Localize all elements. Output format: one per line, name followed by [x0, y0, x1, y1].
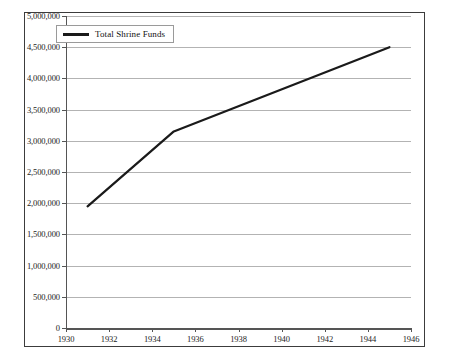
- y-axis-tick-label: 2,500,000: [27, 167, 60, 177]
- y-axis-tick-label: 2,000,000: [27, 198, 60, 208]
- y-axis-tick-label: 3,500,000: [27, 105, 60, 115]
- x-axis-tick-label: 1940: [273, 334, 290, 344]
- y-axis-tick-label: 0: [56, 323, 60, 333]
- y-axis-tick-label: 4,000,000: [27, 73, 60, 83]
- y-axis-tick-label: 1,500,000: [27, 229, 60, 239]
- series-polyline: [88, 47, 390, 206]
- y-axis-tick-label: 1,000,000: [27, 261, 60, 271]
- plot-area: 0500,0001,000,0001,500,0002,000,0002,500…: [66, 16, 411, 328]
- y-axis-line: [66, 16, 67, 329]
- chart-frame: 0500,0001,000,0001,500,0002,000,0002,500…: [24, 12, 425, 347]
- x-axis-tick-label: 1936: [187, 334, 204, 344]
- x-axis-tick-label: 1938: [230, 334, 247, 344]
- legend-line-swatch-icon: [63, 33, 89, 36]
- series-line-total-shrine-funds: [66, 16, 411, 328]
- legend-label: Total Shrine Funds: [95, 29, 165, 39]
- y-axis-tick-label: 5,000,000: [27, 11, 60, 21]
- x-axis-line: [66, 328, 412, 330]
- x-axis-tick-label: 1946: [403, 334, 420, 344]
- x-axis-tick-label: 1932: [101, 334, 118, 344]
- y-axis-tick-label: 500,000: [33, 292, 60, 302]
- x-axis-tick-label: 1944: [360, 334, 377, 344]
- x-axis-tick-label: 1942: [316, 334, 333, 344]
- y-axis-tick-label: 3,000,000: [27, 136, 60, 146]
- chart-legend: Total Shrine Funds: [56, 25, 174, 43]
- y-axis-tick-label: 4,500,000: [27, 42, 60, 52]
- x-axis-tick-label: 1934: [144, 334, 161, 344]
- x-axis-tick-label: 1930: [58, 334, 75, 344]
